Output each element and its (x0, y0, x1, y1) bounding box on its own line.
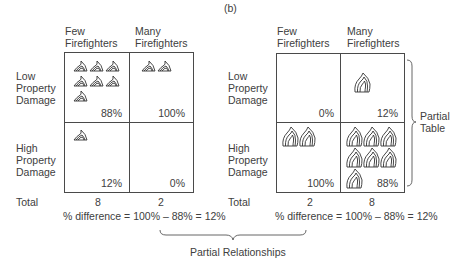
fire-icon (73, 89, 88, 102)
col-header-many-firefighters: Many Firefighters (135, 25, 188, 49)
col-header-few-firefighters: Few Firefighters (65, 25, 118, 49)
total-many-left: 2 (158, 196, 164, 208)
col-header-many-firefighters-right: Many Firefighters (347, 25, 400, 49)
row-label-high-damage: High Property Damage (16, 142, 56, 178)
fire-icon (157, 59, 172, 72)
fire-icon (380, 147, 397, 168)
fire-icon (73, 74, 88, 87)
fire-icon (89, 74, 104, 87)
partial-table-brace (405, 58, 421, 190)
fire-icon (89, 59, 104, 72)
pct-low-few: 88% (90, 107, 122, 119)
pct-high-many-right: 88% (362, 177, 398, 189)
fire-icon (299, 126, 316, 147)
pct-high-few: 12% (90, 177, 122, 189)
fire-icon (363, 147, 380, 168)
row-label-low-damage: Low Property Damage (16, 70, 56, 106)
pct-low-few-right: 0% (300, 107, 334, 119)
difference-left: % difference = 100% – 88% = 12% (63, 210, 226, 222)
pct-low-many-right: 12% (362, 107, 398, 119)
fire-icon (346, 168, 363, 189)
fire-icon (282, 126, 299, 147)
partial-table-label: Partial Table (420, 110, 450, 134)
col-header-few-firefighters-right: Few Firefighters (277, 25, 330, 49)
total-label-right: Total (228, 196, 250, 208)
right-grid-divider-v (340, 53, 341, 193)
fire-icon (346, 126, 363, 147)
total-label-left: Total (16, 196, 38, 208)
fire-icon (141, 59, 156, 72)
fire-icon (105, 59, 120, 72)
fire-icon (363, 126, 380, 147)
pct-low-many: 100% (150, 107, 185, 119)
fire-icon (346, 147, 363, 168)
fire-icon (380, 126, 397, 147)
row-label-high-damage-right: High Property Damage (228, 142, 268, 178)
row-label-low-damage-right: Low Property Damage (228, 70, 268, 106)
fire-icon (73, 128, 88, 141)
fire-icon (73, 59, 88, 72)
partial-relationships-brace (158, 228, 308, 242)
total-many-right: 8 (369, 196, 375, 208)
difference-right: % difference = 100% – 88% = 12% (275, 210, 438, 222)
fire-icon (105, 74, 120, 87)
figure-label: (b) (224, 2, 237, 14)
pct-high-many: 0% (150, 177, 185, 189)
total-few-right: 2 (307, 196, 313, 208)
total-few-left: 8 (95, 196, 101, 208)
left-grid-divider-h (64, 122, 194, 123)
fire-icon (354, 72, 371, 93)
right-grid-divider-h (276, 122, 405, 123)
pct-high-few-right: 100% (300, 177, 334, 189)
partial-relationships-label: Partial Relationships (190, 246, 286, 258)
